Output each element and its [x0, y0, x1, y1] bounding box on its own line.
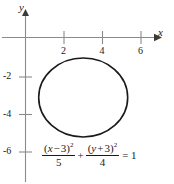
minus-operator: −: [53, 142, 61, 154]
x-axis-label: x: [158, 27, 163, 38]
ellipse-graph-figure: x y 2 4 6 -2 -4 -6 (x−3)2 5 + (y+3)2 4 =…: [0, 0, 174, 184]
ellipse-curve: [39, 58, 128, 137]
first-fraction-denominator: 5: [54, 156, 64, 168]
y-tick-label-minus4: -4: [3, 109, 11, 119]
first-fraction: (x−3)2 5: [42, 143, 75, 168]
second-fraction-numerator: (y+3)2: [86, 143, 119, 155]
x-tick-label-4: 4: [100, 46, 105, 56]
y-tick-label-minus6: -6: [3, 146, 11, 156]
variable-x: x: [48, 142, 53, 154]
plus-operator: +: [76, 150, 84, 161]
ellipse-equation: (x−3)2 5 + (y+3)2 4 = 1: [41, 143, 137, 168]
equation-right-hand-side: = 1: [120, 150, 136, 161]
second-fraction-denominator: 4: [98, 156, 108, 168]
exponent-2: 2: [114, 141, 118, 149]
x-tick-label-6: 6: [138, 46, 143, 56]
y-axis-label: y: [19, 2, 24, 13]
x-tick-label-2: 2: [61, 46, 66, 56]
second-fraction: (y+3)2 4: [86, 143, 119, 168]
y-tick-label-minus2: -2: [3, 71, 11, 81]
first-fraction-numerator: (x−3)2: [42, 143, 75, 155]
exponent-2: 2: [70, 141, 74, 149]
